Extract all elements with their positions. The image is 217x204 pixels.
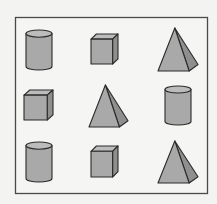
diagram-canvas bbox=[0, 0, 217, 204]
cube-icon bbox=[91, 34, 118, 64]
cylinder-icon bbox=[26, 142, 52, 182]
cube-icon bbox=[91, 146, 118, 177]
cube-icon bbox=[24, 90, 53, 120]
cylinder-icon bbox=[26, 30, 52, 70]
shapes-layer bbox=[24, 28, 198, 183]
cylinder-icon bbox=[165, 86, 191, 125]
shapes-diagram bbox=[0, 0, 217, 204]
